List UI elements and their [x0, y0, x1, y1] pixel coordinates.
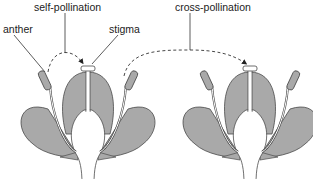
anther-label: anther — [3, 24, 33, 35]
self-pollination-arrow — [48, 53, 82, 72]
cross-pollination-label: cross-pollination — [175, 2, 251, 13]
stigma-label: stigma — [109, 24, 140, 35]
pollination-diagram — [0, 0, 313, 179]
anther-leader — [14, 35, 45, 72]
right-flower — [183, 66, 313, 179]
self-pollination-label: self-pollination — [34, 2, 101, 13]
stigma-leader — [92, 35, 118, 64]
left-flower — [21, 66, 155, 179]
cross-pollination-arrow — [124, 50, 245, 76]
